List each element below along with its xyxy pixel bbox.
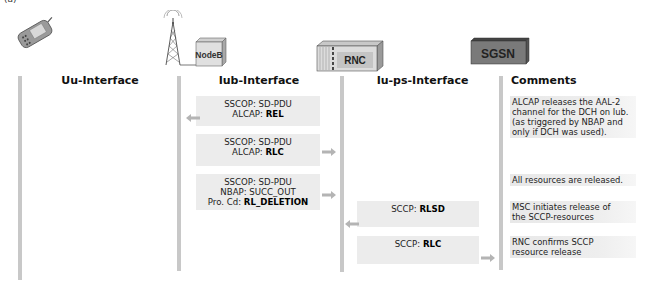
comment-alcap-release: ALCAP releases the AAL-2 channel for the… <box>510 96 636 138</box>
message-alcap-rel: SSCOP: SD-PDU ALCAP: REL <box>196 96 320 126</box>
lifeline-rnc <box>340 76 344 272</box>
sgsn-server-icon: SGSN <box>470 37 530 65</box>
nodeb-tower-icon: NodeB <box>160 10 228 68</box>
rnc-rack-icon: RNC <box>315 40 385 72</box>
lifeline-ue <box>18 76 22 280</box>
figure-label: (a) <box>4 0 17 4</box>
header-uu-interface: Uu-Interface <box>50 74 150 87</box>
arrow-right-icon <box>322 141 336 149</box>
header-comments: Comments <box>505 74 575 87</box>
lifeline-sgsn <box>499 76 503 270</box>
message-nbap-succ-out: SSCOP: SD-PDU NBAP: SUCC_OUT Pro. Cd: RL… <box>196 174 320 210</box>
comment-all-released: All resources are released. <box>510 174 636 186</box>
arrow-right-icon <box>322 184 336 192</box>
message-sccp-rlc: SCCP: RLC <box>357 236 479 264</box>
svg-text:NodeB: NodeB <box>195 50 222 60</box>
arrow-left-icon <box>345 213 359 221</box>
arrow-left-icon <box>186 107 200 115</box>
svg-text:RNC: RNC <box>344 55 366 66</box>
arrow-right-icon <box>481 247 495 255</box>
comment-msc-initiates: MSC initiates release of the SCCP-resour… <box>510 201 636 223</box>
header-iub-interface: Iub-Interface <box>200 74 318 87</box>
header-iups-interface: Iu-ps-Interface <box>360 74 485 87</box>
lifeline-nodeb <box>177 76 181 271</box>
message-alcap-rlc: SSCOP: SD-PDU ALCAP: RLC <box>196 134 320 166</box>
svg-text:SGSN: SGSN <box>481 47 515 61</box>
mobile-phone-icon <box>10 14 60 54</box>
message-sccp-rlsd: SCCP: RLSD <box>357 201 479 227</box>
comment-rnc-confirms: RNC confirms SCCP resource release <box>510 236 636 258</box>
